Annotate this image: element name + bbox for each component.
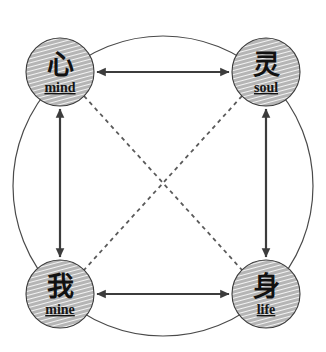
node-life-cn: 身 <box>253 271 280 302</box>
node-mind-cn: 心 <box>47 49 74 80</box>
node-mine[interactable]: 我 mine <box>26 260 94 328</box>
node-mind[interactable]: 心 mind <box>26 38 94 106</box>
node-soul[interactable]: 灵 soul <box>232 38 300 106</box>
node-life-en: life <box>257 302 276 317</box>
diagram-svg: 心 mind 灵 soul 我 mine 身 life <box>0 0 326 352</box>
diagram-canvas: 心 mind 灵 soul 我 mine 身 life <box>0 0 326 352</box>
node-mind-en: mind <box>44 80 75 95</box>
node-life[interactable]: 身 life <box>232 260 300 328</box>
node-soul-cn: 灵 <box>253 49 280 80</box>
node-mine-cn: 我 <box>47 271 74 302</box>
node-soul-en: soul <box>254 80 278 95</box>
node-mine-en: mine <box>45 302 75 317</box>
